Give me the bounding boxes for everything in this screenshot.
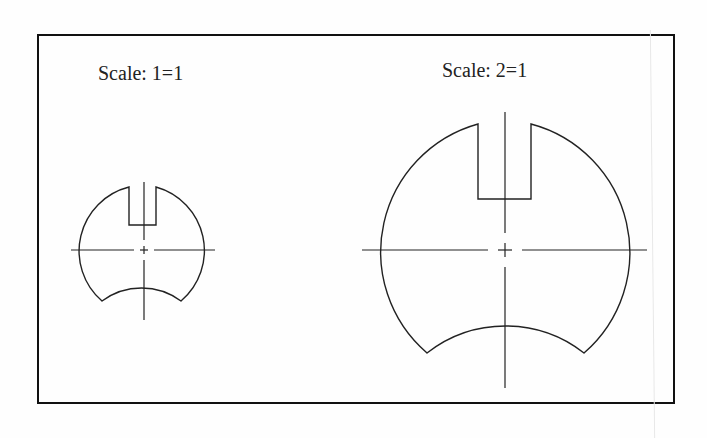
part-view-scale-2-to-1 (362, 112, 647, 388)
part-view-scale-1-to-1 (71, 182, 215, 320)
part-outline (79, 187, 204, 301)
drawing-canvas (0, 0, 707, 438)
